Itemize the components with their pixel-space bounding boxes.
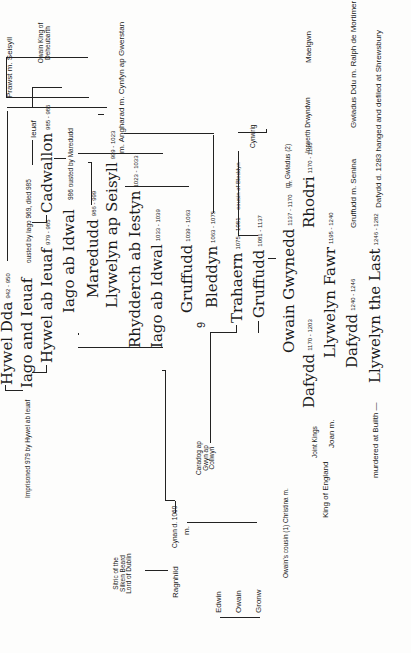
book-page: Hywel Dda942 - 950 Prawst m. Seisyll Imp… [0,0,411,653]
person-hywel-dda: Hywel Dda942 - 950 [0,273,15,385]
note-iago-ousted: 986 ousted by Maredudd [68,128,75,200]
person-ragnhild: Ragnhild [172,566,180,598]
line [266,129,267,133]
line [175,501,176,513]
person-dafydd-3: Dafydd d. 1283 hanged and defiled at Shr… [375,30,383,208]
person-maredudd: Maredudd986 - 999 [86,191,101,298]
line [165,500,175,501]
line [7,107,107,108]
person-llywelyn-ap-seisyll: Llywelyn ap Seisyll999 - 1023 [105,131,120,308]
person-gruffudd-2: Gruffudd1081 - 1137 [252,215,267,318]
line [7,97,89,98]
person-owain-deheubarth: Owain King of Deheubarth [38,13,51,73]
person-gwladus-2: m. Gwladus (2) [285,144,292,188]
person-rhydderch: Rhydderch ab Iestyn1023 - 1033 [128,155,143,348]
person-cynwrig: Cynwrig [250,125,257,148]
person-ieuaf: Ieuaf [30,120,38,138]
page-number: 9 [195,322,207,328]
line [91,163,92,205]
line [5,385,6,391]
label-joint-kings: Joint Kings [312,426,319,458]
line [258,321,259,333]
line [88,162,92,163]
line [32,372,46,373]
line [210,333,211,443]
line [46,215,47,223]
line [46,365,47,373]
person-iago-ab-idwal-1: Iago ab Idwal [62,209,77,313]
person-gruffudd-1: Gruffudd1039 - 1063 [180,210,195,313]
line [5,390,23,391]
line [32,140,33,165]
son-owain: Owain [235,590,243,613]
line [98,114,104,115]
person-gwladus-ddu: Gwladus Ddu m. Ralph de Mortimer [350,1,358,128]
person-caradog: Caradog ap Gwyn ap Collwyn [196,438,216,478]
line [210,332,237,333]
person-maelgwn: Maelgwn [305,31,313,63]
line [54,158,66,159]
note-imprisoned: Imprisoned 979 by Hywel ab Ieuaf [25,400,32,498]
line [268,258,276,259]
family-tree-diagram: Hywel Dda942 - 950 Prawst m. Seisyll Imp… [0,0,411,653]
person-sitric: Sitric of the Silken Beard Lord of Dubli… [113,551,133,596]
line [238,151,239,236]
person-iorwerth: Iorwerth Drwyndwn [305,97,312,153]
person-rhodri: Rhodri1170 - 1195 [302,142,317,228]
line [238,132,266,133]
line [162,370,166,371]
person-joan: Joan m. [328,420,336,448]
line [78,347,163,348]
son-gronw: Gronw [255,589,263,613]
son-edwin: Edwin [215,591,223,613]
line [32,88,33,108]
person-gruffudd-3: Gruffudd m. Senina [350,159,358,228]
line [6,57,88,58]
person-llywelyn-fawr: Llywelyn Fawr1195 - 1240 [323,212,338,358]
line [145,570,168,571]
person-hywel-ab-ieuaf: Hywel ab Ieuaf979 - 985 [40,220,55,363]
line [238,235,258,236]
person-bleddyn: Bleddyn1063 - 1075 [205,211,220,308]
line [165,371,166,501]
line [125,186,189,187]
line [78,333,79,335]
line [7,111,8,261]
person-dafydd-2: Dafydd1240 - 1246 [345,279,360,368]
line [6,58,7,98]
line [78,153,163,154]
line [32,87,62,88]
line [213,135,214,213]
person-dafydd-1: Dafydd1170 - 1203 [302,319,317,408]
person-llywelyn-the-last: Llywelyn the Last1246 - 1282 [368,213,383,383]
person-cadwallon: Cadwallon985 - 986 [40,105,55,213]
person-iago-ab-idwal-2: Iago ab Idwal1033 - 1039 [150,209,165,348]
marriage-ragnhild: m. [183,526,191,535]
line [124,133,214,134]
person-king-england: King of England [322,462,330,519]
line [32,222,46,223]
person-owain-gwynedd: Owain Gwynedd1137 - 1170 m. [282,180,297,353]
line [220,617,260,618]
note-murdered: murdered at Builth — [372,402,380,478]
line [187,522,257,523]
person-christina: Owain's cousin (1) Christina m. [283,488,290,578]
